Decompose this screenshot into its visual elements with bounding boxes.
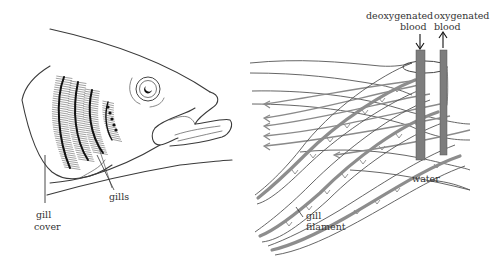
- gill-ray: [53, 94, 69, 97]
- gill-ray: [52, 103, 68, 106]
- gill-ray: [102, 110, 114, 113]
- fish-belly-outline: [47, 160, 232, 195]
- deoxygenated-label-2: blood: [400, 21, 427, 32]
- gill-rakers: [106, 105, 117, 131]
- gill-diagram: gills gill cover: [0, 0, 498, 260]
- gill-ray: [55, 83, 71, 86]
- gill-ray: [52, 116, 68, 119]
- gill-ray: [103, 114, 115, 117]
- gill-ray: [54, 131, 70, 134]
- deoxygenated-vessel: [416, 50, 425, 160]
- gill-ray: [52, 118, 68, 121]
- gill-ray: [53, 129, 69, 132]
- water-label: water: [412, 173, 440, 184]
- gill-ray: [56, 140, 72, 143]
- gill-ray: [54, 89, 70, 92]
- gill-ray: [55, 136, 71, 139]
- gill-ray: [53, 127, 69, 130]
- fish-eye: [130, 77, 164, 107]
- gill-ray: [63, 163, 79, 166]
- gill-ray: [53, 96, 69, 99]
- gill-ray: [104, 121, 116, 124]
- gill-ray: [61, 158, 77, 161]
- gill-filament-label-2: filament: [306, 221, 346, 232]
- gill-ray: [55, 138, 71, 141]
- gill-ray: [59, 151, 75, 154]
- gill-ray: [52, 109, 68, 112]
- gill-ray: [102, 112, 114, 115]
- gill-ray: [62, 160, 78, 163]
- gill-ray: [57, 147, 73, 150]
- fish-head-panel: gills gill cover: [22, 29, 232, 232]
- oxygenated-label-2: blood: [434, 21, 461, 32]
- gill-filament-label-1: gill: [306, 210, 321, 221]
- gills-label: gills: [109, 191, 129, 202]
- gill-ray: [54, 134, 70, 137]
- gill-ray: [53, 98, 69, 101]
- gills: [52, 76, 122, 170]
- gill-ray: [60, 156, 76, 159]
- gill-ray: [55, 85, 71, 88]
- fish-lower-jaw: [170, 119, 232, 146]
- gill-ray: [52, 114, 68, 117]
- fish-upper-jaw: [195, 92, 218, 124]
- gill-ray: [56, 143, 72, 146]
- gill-ray: [57, 145, 73, 148]
- down-arrow-icon: [416, 34, 424, 49]
- gill-ray: [53, 125, 69, 128]
- gill-ray: [52, 112, 68, 115]
- oxygenated-vessel: [440, 50, 447, 155]
- gill-ray: [52, 100, 68, 103]
- fish-mouth-fold: [152, 108, 195, 145]
- oxygenated-label-1: oxygenated: [434, 10, 489, 21]
- gill-ray: [60, 154, 76, 157]
- gill-ray: [83, 104, 98, 107]
- gill-ray: [52, 107, 68, 110]
- gill-ray: [58, 149, 74, 152]
- gill-ray: [52, 105, 68, 108]
- up-arrow-icon: [439, 32, 447, 48]
- deoxygenated-label-1: deoxygenated: [366, 10, 433, 21]
- gill-ray: [78, 159, 94, 162]
- gill-ray: [83, 106, 98, 109]
- gill-cover-label-1: gill: [36, 209, 51, 220]
- gill-ray: [64, 167, 80, 170]
- gill-ray: [54, 87, 70, 90]
- gill-filament-panel: deoxygenated blood oxygenated blood wate…: [250, 10, 489, 255]
- gill-cover-label-2: cover: [34, 221, 61, 232]
- gill-ray: [54, 92, 70, 95]
- gill-ray: [83, 102, 98, 105]
- gill-ray: [63, 165, 79, 168]
